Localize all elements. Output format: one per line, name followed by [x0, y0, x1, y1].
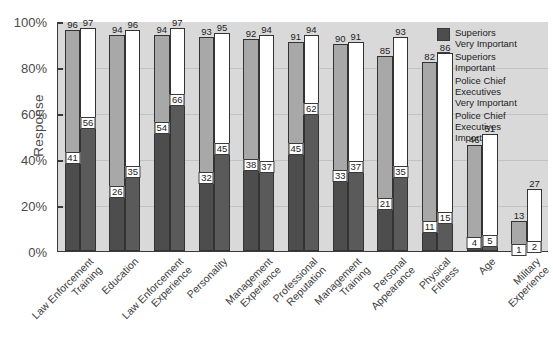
- bar-value-label: 85: [380, 45, 391, 56]
- bar-group: [154, 22, 185, 251]
- bar-value-label: 13: [514, 210, 525, 221]
- y-tick-label: 40%: [21, 153, 47, 168]
- bar-value-label-boxed: 66: [170, 94, 185, 106]
- bar-value-label: 97: [172, 17, 183, 28]
- bar-value-label: 94: [261, 24, 272, 35]
- bar-value-label-boxed: 41: [65, 152, 80, 164]
- bar-value-label-boxed: 21: [378, 198, 393, 210]
- bar-value-label-boxed: 56: [81, 117, 96, 129]
- bar: [65, 157, 81, 251]
- x-axis-tick-labels: Law EnforcementTrainingEducationLaw Enfo…: [57, 255, 548, 361]
- bar: [333, 175, 349, 251]
- bar-group: [243, 22, 274, 251]
- bar-value-label-boxed: 62: [304, 103, 319, 115]
- bar-group: [333, 22, 364, 251]
- bar-value-label-boxed: 11: [422, 221, 437, 233]
- y-axis-tick: [58, 114, 63, 116]
- legend-swatch: [437, 28, 450, 41]
- y-axis-tick: [58, 206, 63, 208]
- bar-value-label: 92: [246, 28, 257, 39]
- y-tick-label: 0%: [28, 245, 47, 260]
- bar-value-label: 94: [157, 24, 168, 35]
- bar: [304, 108, 320, 251]
- bar-value-label-boxed: 45: [214, 143, 229, 155]
- bar-value-label: 46: [469, 134, 480, 145]
- bar-value-label-boxed: 15: [438, 212, 453, 224]
- x-tick-label: ManagementExperience: [223, 255, 283, 315]
- bar: [214, 148, 230, 252]
- bar-value-label-boxed: 37: [348, 161, 363, 173]
- bar-value-label: 93: [395, 26, 406, 37]
- bar: [259, 166, 275, 251]
- bar-value-label-boxed: 32: [199, 172, 214, 184]
- bar-value-label: 95: [217, 22, 228, 33]
- x-tick-label: MilitaryExperience: [497, 255, 551, 309]
- bar-value-label-boxed: 35: [393, 166, 408, 178]
- bar-value-label-boxed: 38: [244, 159, 259, 171]
- bar: [377, 203, 393, 251]
- bar: [243, 164, 259, 251]
- bar-value-label: 91: [351, 31, 362, 42]
- legend-label: Police ChiefExecutivesImportant: [455, 110, 506, 143]
- bar-value-label-boxed: 1: [511, 244, 526, 256]
- y-tick-label: 100%: [14, 15, 47, 30]
- y-tick-label: 80%: [21, 61, 47, 76]
- bar: [125, 171, 141, 252]
- bar-value-label: 86: [440, 42, 451, 53]
- bar-value-label-boxed: 35: [125, 166, 140, 178]
- bar: [482, 134, 498, 251]
- bar-value-label: 94: [112, 24, 123, 35]
- bar-value-label-boxed: 45: [288, 143, 303, 155]
- x-tick-label: Education: [99, 255, 141, 297]
- bar: [80, 122, 96, 251]
- bar-value-label: 27: [529, 178, 540, 189]
- bar-value-label-boxed: 5: [482, 235, 497, 247]
- bar-value-label: 94: [306, 24, 317, 35]
- bar-group: [199, 22, 230, 251]
- bar-value-label-boxed: 26: [110, 186, 125, 198]
- bar: [170, 99, 186, 251]
- bar-group: [65, 22, 96, 251]
- bar-value-label: 51: [484, 123, 495, 134]
- legend-item: SuperiorsImportant: [437, 51, 549, 73]
- x-tick-label: Personality: [184, 255, 229, 300]
- bar-group: [377, 22, 408, 251]
- x-tick-label: PersonalAppearance: [360, 255, 417, 312]
- bar: [467, 145, 483, 251]
- bar: [154, 127, 170, 251]
- bar: [199, 177, 215, 251]
- bar: [109, 191, 125, 251]
- y-tick-label: 20%: [21, 199, 47, 214]
- x-tick-label: PhysicalFitness: [417, 255, 462, 300]
- bar-value-label-boxed: 4: [467, 237, 482, 249]
- bar-value-label-boxed: 33: [333, 170, 348, 182]
- legend-label: Police ChiefExecutivesVery Important: [455, 75, 517, 108]
- y-tick-label: 60%: [21, 107, 47, 122]
- bar-value-label: 96: [67, 19, 78, 30]
- bar-value-label: 93: [201, 26, 212, 37]
- legend-label: SuperiorsVery Important: [455, 27, 517, 49]
- bar-value-label-boxed: 54: [154, 122, 169, 134]
- y-axis-tick: [58, 68, 63, 70]
- legend-item: SuperiorsVery Important: [437, 27, 549, 49]
- bar-group: [109, 22, 140, 251]
- legend-label: SuperiorsImportant: [455, 51, 496, 73]
- bar-value-label: 91: [290, 31, 301, 42]
- x-tick-label: Age: [476, 255, 498, 277]
- bar-group: [288, 22, 319, 251]
- bar: [288, 148, 304, 252]
- legend-item: Police ChiefExecutivesVery Important: [437, 75, 549, 108]
- bar-value-label: 90: [335, 33, 346, 44]
- response-importance-bar-chart: Response 0%20%40%60%80%100% 969741569496…: [0, 0, 553, 361]
- bar-value-label-boxed: 37: [259, 161, 274, 173]
- bar: [348, 166, 364, 251]
- bar-value-label: 82: [424, 51, 435, 62]
- bar-value-label-boxed: 2: [527, 241, 542, 253]
- y-axis-tick: [58, 22, 63, 24]
- y-axis-tick: [58, 160, 63, 162]
- bar-value-label: 96: [127, 19, 138, 30]
- bar-value-label: 97: [83, 17, 94, 28]
- bar: [393, 171, 409, 252]
